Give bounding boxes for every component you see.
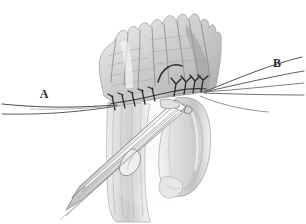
label-b: B <box>273 56 281 70</box>
surgical-illustration-figure: A B <box>0 0 306 224</box>
label-a: A <box>40 87 49 101</box>
illustration-canvas: A B <box>0 0 306 224</box>
